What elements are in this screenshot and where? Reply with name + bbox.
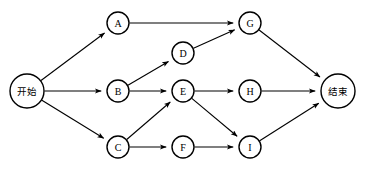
node-label-G: G (246, 18, 253, 29)
node-label-H: H (246, 86, 253, 97)
node-E[interactable]: E (172, 80, 194, 102)
node-end[interactable]: 结束 (321, 74, 355, 108)
node-label-D: D (179, 48, 186, 59)
node-label-E: E (180, 86, 186, 97)
edge-B-to-D (128, 61, 169, 85)
node-label-end: 结束 (328, 86, 348, 97)
node-A[interactable]: A (107, 12, 129, 34)
node-G[interactable]: G (239, 12, 261, 34)
edge-G-to-end (259, 30, 320, 77)
node-C[interactable]: C (107, 136, 129, 158)
node-F[interactable]: F (172, 136, 194, 158)
node-label-A: A (114, 18, 122, 29)
node-label-start: 开始 (17, 86, 37, 97)
node-I[interactable]: I (239, 136, 261, 158)
node-H[interactable]: H (239, 80, 261, 102)
edge-E-to-I (192, 98, 237, 136)
node-label-I: I (248, 142, 251, 153)
nodes-layer: 开始ABCDEFGHI结束 (10, 12, 355, 158)
directed-graph: 开始ABCDEFGHI结束 (0, 0, 365, 175)
node-label-F: F (180, 142, 186, 153)
edge-I-to-end (260, 103, 319, 141)
edge-start-to-C (42, 100, 104, 138)
node-D[interactable]: D (172, 42, 194, 64)
edge-C-to-E (127, 102, 171, 140)
edge-start-to-A (41, 33, 105, 80)
node-label-B: B (115, 86, 122, 97)
diagram-canvas: 开始ABCDEFGHI结束 (0, 0, 365, 175)
edge-D-to-G (194, 30, 235, 48)
node-label-C: C (115, 142, 122, 153)
node-B[interactable]: B (107, 80, 129, 102)
node-start[interactable]: 开始 (10, 74, 44, 108)
